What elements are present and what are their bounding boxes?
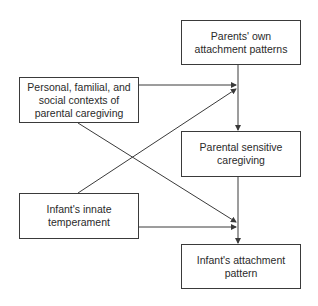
node-infant-attachment-pattern: Infant's attachment pattern — [181, 244, 301, 289]
node-parental-sensitive-caregiving: Parental sensitive caregiving — [181, 131, 301, 177]
node-infant-temperament: Infant's innate temperament — [19, 193, 139, 239]
node-label: Parents' own attachment patterns — [195, 30, 288, 56]
node-caregiving-contexts: Personal, familial, and social contexts … — [19, 77, 139, 123]
node-label: Parental sensitive caregiving — [200, 141, 283, 167]
node-label: Infant's attachment pattern — [197, 254, 285, 280]
node-label: Infant's innate temperament — [46, 203, 111, 229]
node-label: Personal, familial, and social contexts … — [27, 81, 130, 120]
node-parents-attachment-patterns: Parents' own attachment patterns — [181, 20, 301, 65]
